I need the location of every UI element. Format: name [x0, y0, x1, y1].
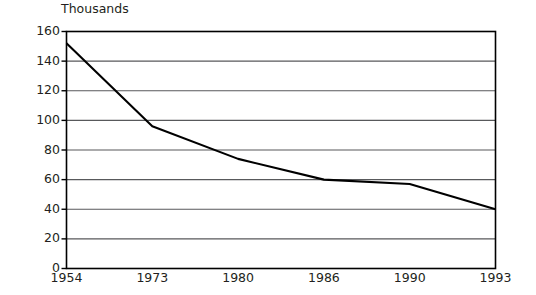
y-axis-tick-label: 80 — [18, 144, 60, 157]
x-axis-tick-label: 1990 — [375, 272, 445, 285]
y-axis-tick-label: 120 — [18, 84, 60, 97]
line-chart: Thousands 020406080100120140160 19541973… — [0, 0, 536, 295]
chart-plot-area — [0, 0, 536, 295]
y-axis-tick-label: 140 — [18, 55, 60, 68]
x-axis-tick-label: 1980 — [203, 272, 273, 285]
y-axis-tick-label: 20 — [18, 232, 60, 245]
gridlines — [62, 32, 496, 269]
x-axis-tick-label: 1993 — [461, 272, 531, 285]
x-axis-tick-label: 1954 — [32, 272, 102, 285]
data-series-line — [67, 43, 496, 209]
y-axis-tick-label: 60 — [18, 173, 60, 186]
x-axis-tick-label: 1973 — [117, 272, 187, 285]
y-axis-tick-label: 160 — [18, 25, 60, 38]
y-axis-tick-label: 40 — [18, 203, 60, 216]
x-axis-tick-label: 1986 — [289, 272, 359, 285]
y-axis-tick-label: 100 — [18, 114, 60, 127]
